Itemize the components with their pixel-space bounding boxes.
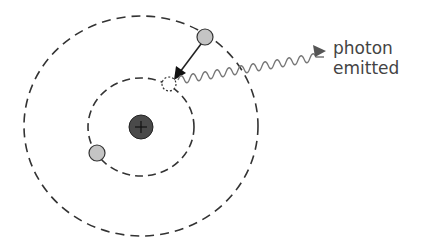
transition-arrow: [174, 44, 201, 80]
electron-inner: [89, 145, 105, 161]
vacancy: [162, 77, 176, 91]
nucleus: [129, 115, 153, 139]
label-line2: emitted: [333, 58, 399, 78]
photon-label: photon emitted: [333, 38, 399, 78]
photon-wave: [178, 54, 324, 83]
atom-diagram: [0, 0, 426, 246]
photon-arrowhead: [313, 45, 326, 57]
label-line1: photon: [333, 38, 399, 58]
electron-outer: [197, 29, 213, 45]
